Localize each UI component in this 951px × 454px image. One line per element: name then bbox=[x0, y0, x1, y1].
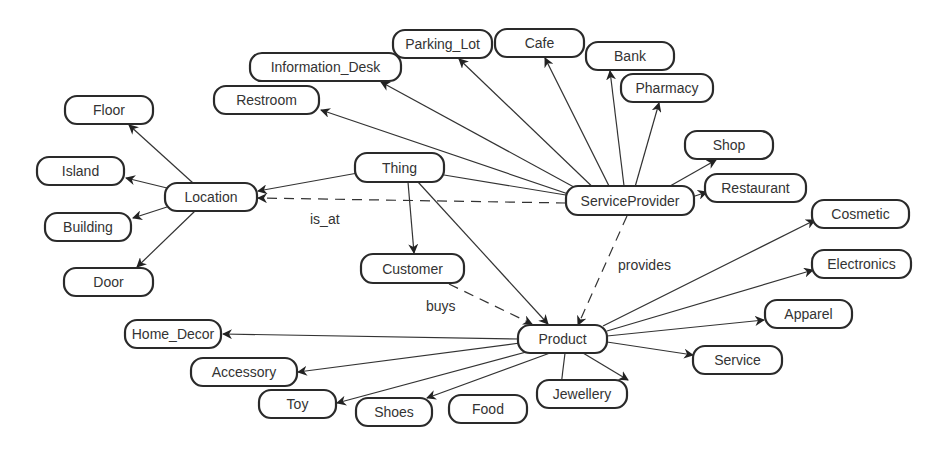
edge-subclass bbox=[137, 211, 195, 267]
edge-subclass bbox=[133, 207, 167, 218]
node-jewellery: Jewellery bbox=[537, 380, 627, 408]
node-label: Accessory bbox=[212, 364, 277, 380]
edge-subclass bbox=[298, 343, 520, 372]
node-customer: Customer bbox=[361, 254, 464, 283]
node-label: Location bbox=[185, 189, 238, 205]
node-label: Shop bbox=[713, 137, 746, 153]
node-label: Door bbox=[93, 274, 124, 290]
node-label: Restaurant bbox=[721, 180, 790, 196]
node-information-desk: Information_Desk bbox=[250, 53, 401, 81]
node-product: Product bbox=[518, 325, 607, 353]
node-label: Cafe bbox=[525, 35, 555, 51]
node-label: Shoes bbox=[374, 404, 414, 420]
node-service: Service bbox=[693, 346, 782, 374]
node-label: Thing bbox=[382, 160, 417, 176]
node-label: Food bbox=[472, 401, 504, 417]
node-building: Building bbox=[45, 213, 131, 241]
node-label: Cosmetic bbox=[831, 206, 889, 222]
node-location: Location bbox=[165, 183, 257, 211]
node-label: Building bbox=[63, 219, 113, 235]
node-toy: Toy bbox=[259, 390, 336, 418]
node-label: Service bbox=[714, 352, 761, 368]
edge-subclass bbox=[459, 59, 602, 196]
node-cosmetic: Cosmetic bbox=[812, 200, 909, 228]
edge-label-buys: buys bbox=[426, 298, 456, 314]
node-island: Island bbox=[37, 157, 124, 185]
node-label: Pharmacy bbox=[635, 80, 698, 96]
node-serviceprovider: ServiceProvider bbox=[566, 186, 694, 215]
node-label: Bank bbox=[614, 48, 647, 64]
node-restroom: Restroom bbox=[214, 86, 319, 114]
node-door: Door bbox=[64, 268, 153, 296]
node-accessory: Accessory bbox=[191, 358, 297, 386]
node-electronics: Electronics bbox=[812, 250, 911, 278]
node-label: Parking_Lot bbox=[405, 36, 480, 52]
node-shop: Shop bbox=[685, 131, 773, 159]
edge-is-at bbox=[258, 198, 566, 203]
node-label: Jewellery bbox=[553, 386, 611, 402]
edge-subclass bbox=[427, 353, 550, 398]
node-label: Island bbox=[62, 163, 99, 179]
node-label: Restroom bbox=[236, 92, 297, 108]
edge-subclass bbox=[607, 342, 693, 355]
node-pharmacy: Pharmacy bbox=[621, 74, 713, 102]
edge-buys bbox=[449, 284, 532, 324]
node-floor: Floor bbox=[65, 96, 153, 124]
edge-subclass bbox=[633, 103, 659, 194]
edge-label-is-at: is_at bbox=[310, 211, 340, 227]
edge-subclass bbox=[126, 178, 167, 188]
node-label: Information_Desk bbox=[271, 59, 382, 75]
node-label: Toy bbox=[287, 396, 309, 412]
edge-subclass bbox=[129, 125, 193, 183]
node-food: Food bbox=[449, 395, 527, 423]
node-label: Floor bbox=[93, 102, 125, 118]
node-thing: Thing bbox=[355, 153, 444, 182]
node-parking-lot: Parking_Lot bbox=[393, 30, 492, 58]
node-label: Customer bbox=[382, 261, 443, 277]
node-label: Apparel bbox=[784, 306, 832, 322]
node-home-decor: Home_Decor bbox=[125, 320, 221, 348]
edge-subclass bbox=[223, 334, 520, 339]
edge-subclass bbox=[607, 320, 764, 336]
node-bank: Bank bbox=[586, 42, 674, 70]
node-shoes: Shoes bbox=[356, 398, 432, 426]
node-label: ServiceProvider bbox=[581, 193, 680, 209]
edge-label-provides: provides bbox=[618, 257, 671, 273]
edge-subclass bbox=[408, 182, 414, 253]
node-cafe: Cafe bbox=[495, 29, 584, 57]
node-label: Home_Decor bbox=[132, 326, 215, 342]
node-restaurant: Restaurant bbox=[705, 174, 806, 202]
node-apparel: Apparel bbox=[765, 300, 852, 328]
ontology-diagram: is_atprovidesbuys ThingLocationFloorIsla… bbox=[0, 0, 951, 454]
edge-subclass bbox=[583, 353, 628, 380]
node-label: Electronics bbox=[827, 256, 895, 272]
node-label: Product bbox=[538, 331, 586, 347]
